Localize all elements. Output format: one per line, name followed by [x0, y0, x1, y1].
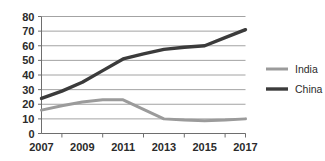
y-tick-label: 20 [22, 98, 34, 110]
x-tick-label: 2017 [233, 141, 257, 153]
x-tick-label: 2015 [192, 141, 216, 153]
x-tick-label: 2007 [29, 141, 53, 153]
x-tick-label: 2009 [70, 141, 94, 153]
x-tick-label: 2013 [152, 141, 176, 153]
y-tick-label: 80 [22, 11, 34, 23]
chart-canvas: 01020304050607080 2007200920112013201520… [0, 0, 325, 161]
legend-label-china: China [295, 83, 323, 95]
y-tick-label: 60 [22, 40, 34, 52]
y-tick-label: 30 [22, 84, 34, 96]
y-tick-label: 50 [22, 54, 34, 66]
chart-background [0, 0, 325, 161]
line-chart: 01020304050607080 2007200920112013201520… [0, 0, 325, 161]
y-axis-tick-labels: 01020304050607080 [22, 11, 34, 140]
legend-label-india: India [295, 63, 318, 75]
y-tick-label: 40 [22, 69, 34, 81]
y-tick-label: 70 [22, 25, 34, 37]
y-tick-label: 10 [22, 113, 34, 125]
x-tick-label: 2011 [111, 141, 135, 153]
y-tick-label: 0 [28, 128, 34, 140]
